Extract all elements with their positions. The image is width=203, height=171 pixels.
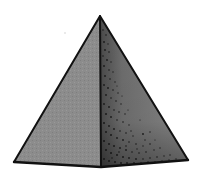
front-edge: [100, 16, 101, 167]
speck: [64, 32, 66, 34]
left-face: [14, 16, 101, 167]
pyramid-illustration: [0, 0, 203, 171]
pyramid-diagram: Square pyramid: [0, 0, 203, 171]
